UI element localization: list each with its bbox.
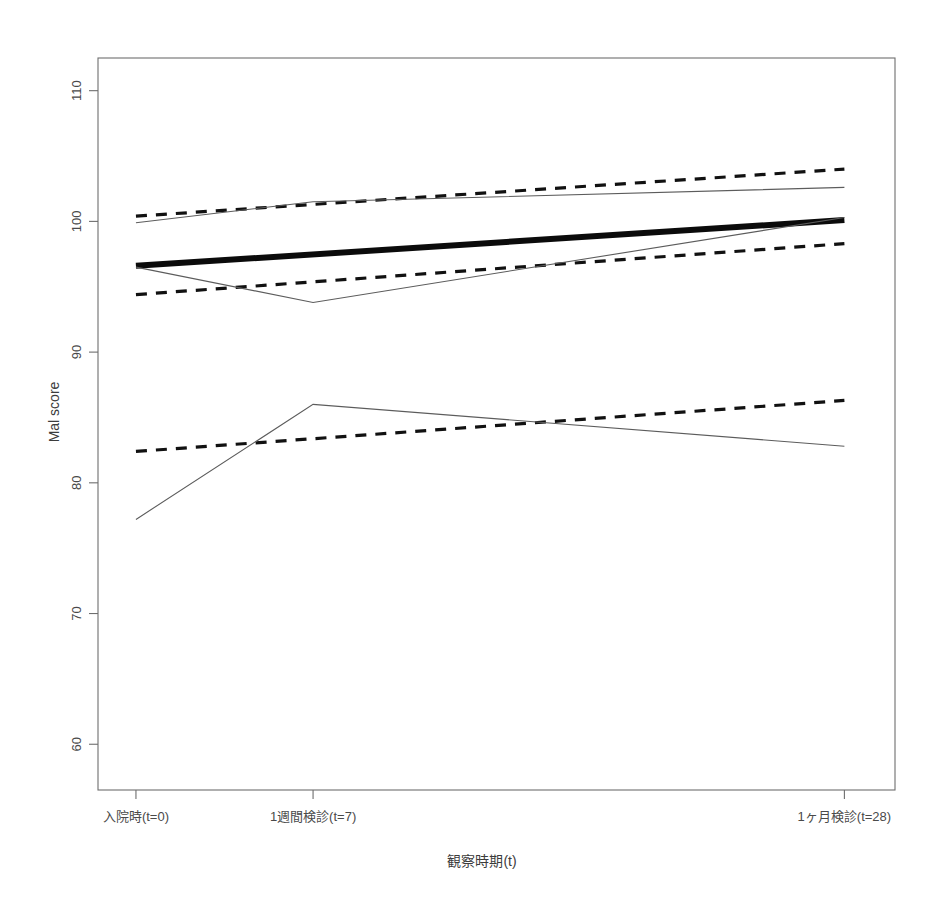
- y-tick-label: 90: [69, 345, 84, 359]
- x-axis-title: 観察時期(t): [447, 853, 516, 869]
- x-tick-label: 1ヶ月検診(t=28): [798, 809, 892, 824]
- y-tick-label: 60: [69, 737, 84, 751]
- x-tick-label: 入院時(t=0): [103, 809, 169, 824]
- y-tick-label: 70: [69, 606, 84, 620]
- y-tick-label: 80: [69, 476, 84, 490]
- x-tick-label: 1週間検診(t=7): [270, 809, 356, 824]
- mal-score-line-chart: 60708090100110 入院時(t=0)1週間検診(t=7)1ヶ月検診(t…: [0, 0, 952, 899]
- y-tick-label: 100: [69, 211, 84, 233]
- y-axis-title: Mal score: [46, 381, 62, 442]
- y-tick-label: 110: [69, 80, 84, 101]
- chart-figure: 60708090100110 入院時(t=0)1週間検診(t=7)1ヶ月検診(t…: [0, 0, 952, 899]
